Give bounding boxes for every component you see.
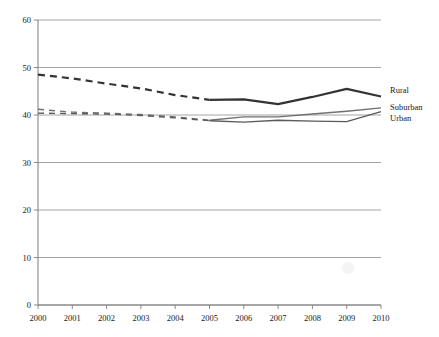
y-tick-label-40: 40: [23, 110, 32, 120]
chart-plot-area: 0102030405060 20002001200220032004200520…: [0, 0, 439, 337]
x-tick-label-2009: 2009: [338, 313, 355, 323]
x-tick-label-2006: 2006: [235, 313, 252, 323]
y-axis-tick-labels: 0102030405060: [23, 15, 32, 310]
watermark-artifact: [342, 262, 354, 274]
legend: RuralSuburbanUrban: [390, 85, 423, 123]
series-line-urban-solid: [210, 112, 382, 122]
legend-label-rural: Rural: [390, 85, 410, 95]
x-tick-label-2004: 2004: [167, 313, 185, 323]
line-chart: 0102030405060 20002001200220032004200520…: [0, 0, 439, 337]
x-tick-label-2001: 2001: [64, 313, 81, 323]
y-tick-label-20: 20: [23, 205, 32, 215]
series-line-urban-dashed: [38, 113, 210, 121]
y-tick-label-50: 50: [23, 63, 32, 73]
tick-marks: [34, 20, 381, 309]
legend-label-suburban: Suburban: [390, 102, 423, 112]
x-tick-label-2002: 2002: [98, 313, 115, 323]
y-tick-label-0: 0: [27, 300, 31, 310]
x-tick-label-2005: 2005: [201, 313, 218, 323]
x-tick-label-2008: 2008: [304, 313, 321, 323]
gridlines: [38, 20, 381, 305]
y-tick-label-60: 60: [23, 15, 32, 25]
series-line-suburban-solid: [210, 108, 382, 120]
x-tick-label-2000: 2000: [30, 313, 47, 323]
x-tick-label-2010: 2010: [373, 313, 390, 323]
x-tick-label-2007: 2007: [270, 313, 287, 323]
series-line-rural-dashed: [38, 75, 210, 100]
legend-label-urban: Urban: [390, 113, 412, 123]
x-axis-tick-labels: 2000200120022003200420052006200720082009…: [30, 313, 390, 323]
series-line-rural-solid: [210, 89, 382, 104]
y-tick-label-10: 10: [23, 253, 32, 263]
x-tick-label-2003: 2003: [132, 313, 149, 323]
y-tick-label-30: 30: [23, 158, 32, 168]
